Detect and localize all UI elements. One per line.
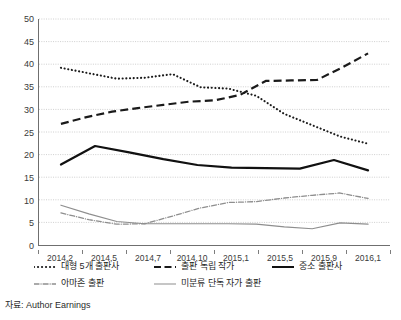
legend-item[interactable]: 출판 독립 작가 (154, 258, 234, 275)
chart-figure: 50454035302520151050 2014,22014,52014,72… (0, 0, 401, 320)
series-line (61, 68, 368, 144)
legend-label: 중소 출판사 (299, 261, 342, 272)
y-tick-label: 5 (2, 219, 34, 228)
x-tick-mark (214, 250, 215, 254)
legend-row: 아마존 출판미분류 단독 자가 출판 (24, 275, 380, 292)
y-tick-label: 25 (2, 129, 34, 138)
y-tick-label: 30 (2, 106, 34, 115)
y-tick-label: 35 (2, 83, 34, 92)
legend-swatch-icon (34, 279, 56, 289)
x-tick-mark (346, 250, 347, 254)
legend-item[interactable]: 중소 출판사 (272, 258, 342, 275)
y-tick-label: 15 (2, 174, 34, 183)
x-tick-mark (38, 250, 39, 254)
series-line (61, 146, 368, 170)
legend-label: 출판 독립 작가 (181, 261, 234, 272)
legend-swatch-icon (272, 262, 294, 272)
y-tick-label: 40 (2, 60, 34, 69)
series-line (61, 53, 368, 124)
legend-item[interactable]: 미분류 단독 자가 출판 (154, 275, 261, 292)
y-axis-labels: 50454035302520151050 (0, 0, 34, 265)
legend-label: 미분류 단독 자가 출판 (181, 278, 261, 289)
series-line (61, 205, 368, 229)
y-tick-label: 10 (2, 197, 34, 206)
legend-swatch-icon (154, 279, 176, 289)
x-tick-mark (82, 250, 83, 254)
x-tick-mark (126, 250, 127, 254)
plot-area (38, 19, 390, 246)
series-line (61, 193, 368, 224)
y-tick-label: 45 (2, 38, 34, 47)
y-tick-label: 0 (2, 242, 34, 251)
legend-item[interactable]: 아마존 출판 (34, 275, 104, 292)
x-tick-mark (258, 250, 259, 254)
legend-swatch-icon (34, 262, 56, 272)
source-note: 자료: Author Earnings (5, 300, 91, 311)
x-tick-mark (302, 250, 303, 254)
legend-item[interactable]: 대형 5개 출판사 (34, 258, 119, 275)
chart-legend: 대형 5개 출판사출판 독립 작가중소 출판사아마존 출판미분류 단독 자가 출… (24, 258, 380, 296)
x-tick-mark (390, 250, 391, 254)
legend-label: 대형 5개 출판사 (61, 261, 119, 272)
series-lines (39, 19, 390, 245)
y-tick-label: 20 (2, 151, 34, 160)
legend-label: 아마존 출판 (61, 278, 104, 289)
x-tick-mark (170, 250, 171, 254)
legend-row: 대형 5개 출판사출판 독립 작가중소 출판사 (24, 258, 380, 275)
y-tick-label: 50 (2, 15, 34, 24)
legend-swatch-icon (154, 262, 176, 272)
